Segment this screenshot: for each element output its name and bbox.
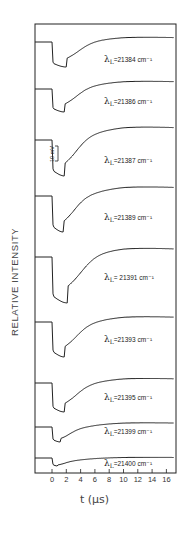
scale-bar-label: 10 mV [49, 146, 55, 162]
trace-line [35, 187, 174, 232]
x-tick-label: 2 [64, 475, 68, 484]
x-tick-label: 10 [119, 475, 127, 484]
x-tick-label: 16 [162, 475, 170, 484]
x-tick-label: 14 [148, 475, 156, 484]
scale-bar: 10 mV [49, 146, 58, 162]
trace-label: λL=21387 cm⁻¹ [104, 155, 153, 166]
x-tick-label: 6 [93, 475, 97, 484]
x-tick-label: 0 [50, 475, 54, 484]
trace-line [35, 127, 174, 176]
y-axis-label: RELATIVE INTENSITY [9, 228, 20, 336]
x-tick-label: 8 [107, 475, 111, 484]
trace-label: λL= 21391 cm⁻¹ [104, 272, 155, 283]
trace-label: λL=21384 cm⁻¹ [104, 54, 153, 65]
x-axis-label: t (μs) [80, 493, 109, 506]
trace-label: λL=21395 cm⁻¹ [104, 392, 153, 403]
trace-label: λL=21389 cm⁻¹ [104, 212, 153, 223]
x-axis: 0246810121416 [50, 469, 171, 484]
x-tick-label: 4 [79, 475, 83, 484]
trace-label: λL=21393 cm⁻¹ [104, 334, 153, 345]
trace-label: λL=21386 cm⁻¹ [104, 96, 153, 107]
figure: λL=21384 cm⁻¹λL=21386 cm⁻¹λL=21387 cm⁻¹λ… [0, 0, 190, 538]
trace-label: λL=21399 cm⁻¹ [104, 426, 153, 437]
x-tick-label: 12 [134, 475, 142, 484]
trace-labels-group: λL=21384 cm⁻¹λL=21386 cm⁻¹λL=21387 cm⁻¹λ… [104, 54, 155, 469]
trace-label: λL=21400 cm⁻¹ [104, 458, 153, 469]
